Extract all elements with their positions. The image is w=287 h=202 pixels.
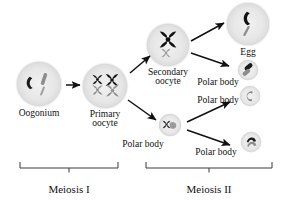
label-oogonium-text: Oogonium (19, 109, 60, 119)
label-polar-body-3-text: Polar body (197, 96, 238, 106)
cell-secondary-oocyte (146, 23, 191, 68)
label-secondary-oocyte-text-line2: oocyte (155, 77, 180, 87)
cell-primary-oocyte (82, 63, 129, 110)
diagram-canvas (0, 0, 287, 202)
cell-polar-body-3 (240, 86, 260, 106)
phase-label-meiosis-1: Meiosis I (48, 183, 89, 195)
oogenesis-diagram: OogoniumPrimaryoocyteSecondaryoocyteEggP… (0, 0, 287, 202)
arrow-primary-to-polar-body-1 (128, 100, 156, 120)
arrow-polar-body-1-to-polar-body-4 (187, 130, 230, 145)
phase-bracket-layer (20, 162, 272, 173)
label-egg-text: Egg (240, 48, 255, 58)
label-polar-body-2-text: Polar body (197, 78, 238, 88)
arrow-secondary-to-egg (191, 23, 224, 41)
label-primary-oocyte-text-line2: oocyte (92, 119, 117, 129)
label-polar-body-1-text: Polar body (122, 140, 163, 150)
cell-oogonium (16, 61, 63, 108)
bracket-meiosis-1 (20, 162, 118, 173)
phase-label-meiosis-2: Meiosis II (187, 183, 232, 195)
bracket-meiosis-2 (146, 162, 272, 173)
label-polar-body-4-text: Polar body (195, 148, 236, 158)
arrow-secondary-to-polar-body-2 (191, 53, 229, 66)
